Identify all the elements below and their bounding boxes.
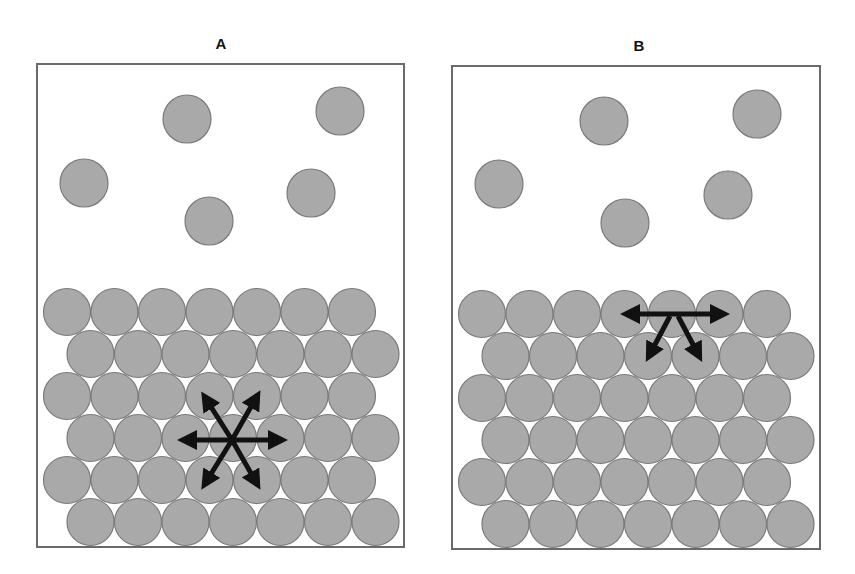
lattice-particle	[91, 373, 138, 420]
lattice-particle	[459, 291, 506, 338]
lattice-particle	[767, 417, 814, 464]
lattice-particle	[186, 373, 233, 420]
lattice-particle	[506, 375, 553, 422]
lattice-particle	[257, 331, 304, 378]
lattice-particle	[625, 501, 672, 548]
lattice-particle	[672, 333, 719, 380]
lattice-particle	[329, 373, 376, 420]
lattice-particle	[115, 415, 162, 462]
lattice-particle	[281, 373, 328, 420]
lattice-particle	[649, 459, 696, 506]
lattice-particle	[530, 333, 577, 380]
lattice-particle	[601, 459, 648, 506]
free-particle	[580, 97, 628, 145]
lattice-particle	[352, 499, 399, 546]
lattice-particle	[625, 333, 672, 380]
free-particle	[601, 199, 649, 247]
lattice-particle	[352, 415, 399, 462]
lattice-particle	[744, 291, 791, 338]
panel-b: B	[452, 37, 820, 549]
lattice-particle	[744, 375, 791, 422]
lattice-particle	[44, 289, 91, 336]
lattice-particle	[577, 417, 624, 464]
lattice-particle	[139, 373, 186, 420]
lattice-particle	[530, 501, 577, 548]
lattice-particle	[601, 375, 648, 422]
figure-canvas: A B	[0, 0, 855, 574]
lattice-particle	[305, 331, 352, 378]
lattice-particle	[577, 501, 624, 548]
free-particle	[733, 90, 781, 138]
lattice-particle	[459, 375, 506, 422]
free-particle	[185, 197, 233, 245]
lattice-particle	[162, 331, 209, 378]
lattice-particle	[767, 333, 814, 380]
lattice-particle	[530, 417, 577, 464]
lattice-particle	[91, 457, 138, 504]
panel-a-label: A	[216, 35, 227, 52]
free-particle	[316, 87, 364, 135]
lattice-particle	[554, 375, 601, 422]
lattice-particle	[67, 415, 114, 462]
lattice-particle	[44, 373, 91, 420]
lattice-particle	[67, 499, 114, 546]
panel-a: A	[37, 35, 404, 547]
free-particle	[475, 160, 523, 208]
free-particle	[287, 169, 335, 217]
panel-b-label: B	[634, 37, 645, 54]
lattice-particle	[506, 459, 553, 506]
lattice-particle	[554, 459, 601, 506]
lattice-particle	[329, 289, 376, 336]
panel-b-lattice	[459, 291, 815, 548]
lattice-particle	[186, 289, 233, 336]
lattice-particle	[257, 499, 304, 546]
lattice-particle	[720, 417, 767, 464]
lattice-particle	[577, 333, 624, 380]
lattice-particle	[744, 459, 791, 506]
lattice-particle	[44, 457, 91, 504]
lattice-particle	[482, 417, 529, 464]
lattice-particle	[91, 289, 138, 336]
lattice-particle	[305, 499, 352, 546]
lattice-particle	[554, 291, 601, 338]
lattice-particle	[281, 289, 328, 336]
lattice-particle	[352, 331, 399, 378]
free-particle	[60, 159, 108, 207]
lattice-particle	[67, 331, 114, 378]
lattice-particle	[672, 501, 719, 548]
lattice-particle	[720, 501, 767, 548]
lattice-particle	[115, 331, 162, 378]
lattice-particle	[139, 457, 186, 504]
lattice-particle	[139, 289, 186, 336]
lattice-particle	[696, 459, 743, 506]
lattice-particle	[506, 291, 553, 338]
free-particle	[704, 171, 752, 219]
lattice-particle	[234, 289, 281, 336]
lattice-particle	[162, 499, 209, 546]
lattice-particle	[210, 499, 257, 546]
lattice-particle	[482, 501, 529, 548]
lattice-particle	[459, 459, 506, 506]
lattice-particle	[720, 333, 767, 380]
panel-a-lattice	[44, 289, 400, 546]
lattice-particle	[767, 501, 814, 548]
lattice-particle	[696, 375, 743, 422]
lattice-particle	[672, 417, 719, 464]
lattice-particle	[649, 375, 696, 422]
lattice-particle	[305, 415, 352, 462]
lattice-particle	[329, 457, 376, 504]
lattice-particle	[281, 457, 328, 504]
lattice-particle	[210, 331, 257, 378]
free-particle	[163, 95, 211, 143]
lattice-particle	[625, 417, 672, 464]
lattice-particle	[115, 499, 162, 546]
lattice-particle	[482, 333, 529, 380]
lattice-particle	[234, 373, 281, 420]
